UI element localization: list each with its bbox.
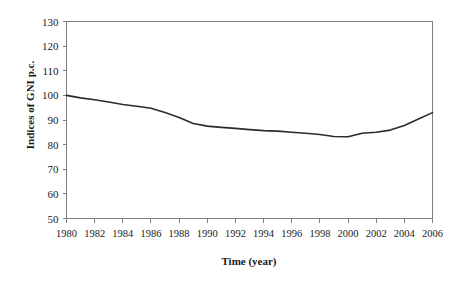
x-tick-label: 2004 <box>394 228 416 239</box>
x-tick-label: 2002 <box>366 228 387 239</box>
x-tick-label: 2000 <box>338 228 359 239</box>
y-axis-ticks <box>63 22 67 219</box>
y-axis-tick-labels: 5060708090100110120130 <box>42 16 59 225</box>
y-tick-label: 130 <box>42 16 59 28</box>
x-tick-label: 1984 <box>112 228 134 239</box>
x-axis-ticks <box>67 219 433 223</box>
x-axis-tick-labels: 1980198219841986198819901992199419961998… <box>56 228 443 239</box>
y-tick-label: 70 <box>48 163 60 175</box>
y-tick-label: 60 <box>48 188 60 200</box>
x-tick-label: 1980 <box>56 228 77 239</box>
x-tick-label: 1982 <box>84 228 105 239</box>
y-tick-label: 120 <box>42 40 59 52</box>
x-tick-label: 1992 <box>225 228 246 239</box>
y-tick-label: 110 <box>42 65 59 77</box>
y-tick-label: 100 <box>42 89 59 101</box>
x-tick-label: 2006 <box>422 228 443 239</box>
y-tick-label: 90 <box>48 114 60 126</box>
y-tick-label: 50 <box>48 213 60 225</box>
x-tick-label: 1986 <box>140 228 161 239</box>
line-chart-plot: 5060708090100110120130 19801982198419861… <box>0 0 454 282</box>
y-tick-label: 80 <box>48 139 60 151</box>
x-axis-title: Time (year) <box>66 255 432 267</box>
chart-figure: Indices of GNI p.c. 50607080901001101201… <box>0 0 454 282</box>
data-series-line <box>67 95 433 136</box>
x-tick-label: 1988 <box>169 228 190 239</box>
x-tick-label: 1994 <box>253 228 275 239</box>
x-tick-label: 1990 <box>197 228 218 239</box>
x-tick-label: 1996 <box>281 228 302 239</box>
x-tick-label: 1998 <box>309 228 330 239</box>
